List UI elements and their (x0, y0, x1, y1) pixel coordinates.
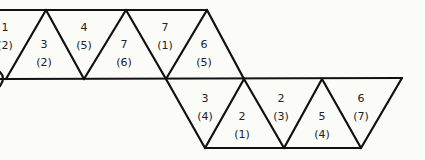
svg-text:(1): (1) (234, 128, 250, 141)
svg-text:6: 6 (358, 92, 365, 105)
face-b3: 5 (4) (314, 110, 330, 141)
svg-text:(2): (2) (0, 39, 13, 52)
svg-text:5: 5 (319, 110, 326, 123)
svg-text:4: 4 (81, 21, 88, 34)
svg-text:(3): (3) (273, 110, 289, 123)
svg-text:(2): (2) (36, 56, 52, 69)
face-t0: 1 (2) (0, 21, 13, 52)
svg-text:2: 2 (278, 92, 285, 105)
face-b0: 3 (4) (197, 92, 213, 123)
svg-text:2: 2 (239, 110, 246, 123)
face-t1: 3 (2) (36, 38, 52, 69)
face-t5: 6 (5) (196, 38, 212, 69)
face-t3: 7 (6) (116, 38, 132, 69)
middle-edge (0, 78, 402, 79)
svg-text:(4): (4) (314, 128, 330, 141)
face-b2: 2 (3) (273, 92, 289, 123)
svg-text:(5): (5) (76, 39, 92, 52)
svg-text:6: 6 (201, 38, 208, 51)
svg-text:1: 1 (2, 21, 9, 34)
svg-text:(1): (1) (157, 39, 173, 52)
svg-text:3: 3 (202, 92, 209, 105)
svg-text:(6): (6) (116, 56, 132, 69)
face-b1: 2 (1) (234, 110, 250, 141)
svg-text:(7): (7) (353, 110, 369, 123)
face-t2: 4 (5) (76, 21, 92, 52)
svg-text:7: 7 (121, 38, 128, 51)
svg-text:(4): (4) (197, 110, 213, 123)
triangle-net-diagram: 1 (2) 3 (2) 4 (5) 7 (6) 7 (1) 6 (5) 3 (4… (0, 0, 425, 160)
svg-text:3: 3 (41, 38, 48, 51)
svg-text:(5): (5) (196, 56, 212, 69)
face-b4: 6 (7) (353, 92, 369, 123)
face-t4: 7 (1) (157, 21, 173, 52)
svg-text:7: 7 (162, 21, 169, 34)
